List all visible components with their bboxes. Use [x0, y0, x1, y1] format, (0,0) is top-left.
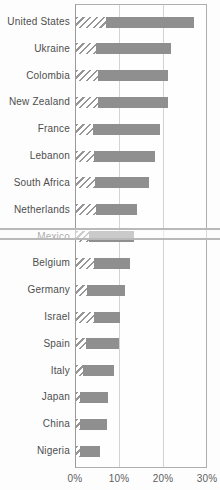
bar-segment-hatched	[76, 43, 96, 54]
bar-segment-solid	[94, 312, 121, 323]
x-tick-label: 10%	[103, 473, 135, 484]
bar-row-china	[76, 419, 107, 430]
category-label: Netherlands	[0, 203, 70, 217]
bar-segment-solid	[96, 43, 172, 54]
bar-segment-hatched	[76, 97, 98, 108]
bar-segment-hatched	[76, 177, 95, 188]
bar-segment-hatched	[76, 338, 86, 349]
mexico-row-highlight-band	[0, 228, 220, 240]
bar-segment-solid	[93, 124, 160, 135]
x-tick-label: 0%	[59, 473, 91, 484]
bar-row-ukraine	[76, 43, 171, 54]
category-label: Belgium	[0, 256, 70, 270]
category-label: Italy	[0, 364, 70, 378]
category-label: Germany	[0, 283, 70, 297]
category-label: Lebanon	[0, 149, 70, 163]
category-label: Ukraine	[0, 42, 70, 56]
bar-segment-solid	[86, 338, 119, 349]
bar-chart-figure: United StatesUkraineColombiaNew ZealandF…	[0, 0, 220, 490]
bar-segment-solid	[87, 285, 125, 296]
category-label: United States	[0, 15, 70, 29]
bar-segment-solid	[80, 446, 101, 457]
bar-row-south-africa	[76, 177, 149, 188]
bar-row-new-zealand	[76, 97, 168, 108]
bar-row-belgium	[76, 258, 130, 269]
bar-segment-solid	[83, 365, 115, 376]
category-label: New Zealand	[0, 95, 70, 109]
bar-segment-solid	[80, 419, 107, 430]
x-tick-label: 20%	[147, 473, 179, 484]
bar-segment-hatched	[76, 312, 94, 323]
bar-row-netherlands	[76, 204, 137, 215]
bar-row-italy	[76, 365, 114, 376]
category-label: Colombia	[0, 69, 70, 83]
bar-row-colombia	[76, 70, 168, 81]
bar-segment-hatched	[76, 365, 83, 376]
category-label: Nigeria	[0, 444, 70, 458]
bar-segment-hatched	[76, 124, 93, 135]
bar-row-united-states	[76, 17, 194, 28]
bar-segment-hatched	[76, 151, 94, 162]
category-label: Spain	[0, 337, 70, 351]
category-label: Japan	[0, 390, 70, 404]
bar-segment-solid	[98, 97, 168, 108]
bar-row-spain	[76, 338, 119, 349]
category-label: Israel	[0, 310, 70, 324]
bar-row-japan	[76, 392, 108, 403]
bar-segment-hatched	[76, 285, 87, 296]
bar-segment-hatched	[76, 258, 94, 269]
bar-segment-hatched	[76, 70, 98, 81]
bar-row-nigeria	[76, 446, 100, 457]
category-label: South Africa	[0, 176, 70, 190]
bar-segment-solid	[94, 258, 131, 269]
bar-segment-solid	[95, 177, 149, 188]
bar-segment-solid	[80, 392, 108, 403]
bar-segment-solid	[98, 70, 168, 81]
bar-segment-solid	[106, 17, 194, 28]
x-tick-label: 30%	[191, 473, 220, 484]
bar-segment-solid	[96, 204, 137, 215]
bar-row-germany	[76, 285, 125, 296]
bar-row-france	[76, 124, 160, 135]
bar-row-lebanon	[76, 151, 155, 162]
bar-segment-hatched	[76, 17, 106, 28]
bar-segment-solid	[94, 151, 156, 162]
bar-row-israel	[76, 312, 120, 323]
category-label: France	[0, 122, 70, 136]
category-label: China	[0, 417, 70, 431]
bar-segment-hatched	[76, 204, 96, 215]
